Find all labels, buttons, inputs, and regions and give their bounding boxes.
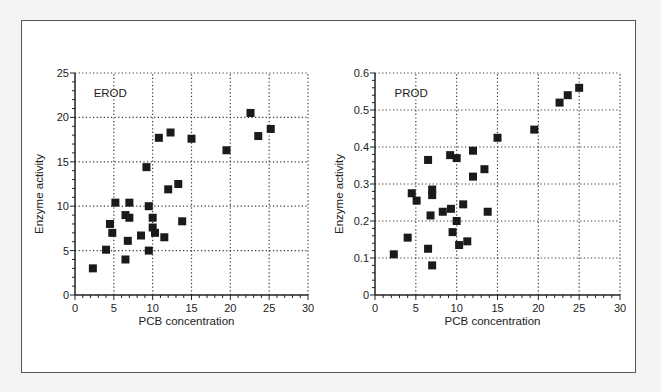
figure-svg: 0510152025300510152025PCB concentrationE… (0, 0, 661, 392)
data-point-marker (102, 246, 110, 254)
data-point-marker (254, 132, 262, 140)
y-tick-label: 20 (57, 111, 69, 123)
x-tick-label: 20 (224, 302, 236, 314)
data-point-marker (145, 247, 153, 255)
data-point-marker (575, 84, 583, 92)
data-point-marker (459, 200, 467, 208)
data-point-marker (142, 163, 150, 171)
data-point-marker (137, 232, 145, 240)
data-point-marker (106, 220, 114, 228)
y-tick-label: 0.4 (354, 141, 369, 153)
y-tick-label: 15 (57, 156, 69, 168)
data-point-marker (145, 202, 153, 210)
data-point-marker (427, 211, 435, 219)
x-axis-label: PCB concentration (445, 315, 541, 327)
x-tick-label: 15 (491, 302, 503, 314)
x-tick-label: 20 (532, 302, 544, 314)
y-tick-label: 0 (63, 289, 69, 301)
data-point-marker (404, 234, 412, 242)
data-point-marker (174, 180, 182, 188)
data-point-marker (149, 214, 157, 222)
data-point-marker (267, 125, 275, 133)
data-point-marker (439, 208, 447, 216)
data-point-marker (167, 128, 175, 136)
y-tick-label: 10 (57, 200, 69, 212)
y-tick-label: 0.6 (354, 67, 369, 79)
x-tick-label: 0 (72, 302, 78, 314)
data-point-marker (424, 245, 432, 253)
data-point-marker (124, 237, 132, 245)
data-point-marker (469, 173, 477, 181)
y-tick-label: 25 (57, 67, 69, 79)
x-tick-label: 15 (185, 302, 197, 314)
panel-label: PROD (395, 87, 428, 99)
data-point-marker (564, 91, 572, 99)
y-tick-label: 0.1 (354, 252, 369, 264)
x-tick-label: 5 (111, 302, 117, 314)
x-tick-label: 30 (614, 302, 626, 314)
data-point-marker (121, 255, 129, 263)
x-tick-label: 25 (263, 302, 275, 314)
data-point-marker (463, 237, 471, 245)
x-tick-label: 10 (451, 302, 463, 314)
data-point-marker (188, 135, 196, 143)
y-axis-label: Enzyme activity (33, 154, 45, 234)
data-point-marker (108, 229, 116, 237)
x-tick-label: 10 (147, 302, 159, 314)
y-axis-label: Enzyme activity (333, 154, 345, 234)
panel-label: EROD (94, 87, 127, 99)
x-tick-label: 5 (413, 302, 419, 314)
y-tick-label: 0 (363, 289, 369, 301)
data-point-marker (455, 241, 463, 249)
data-point-marker (556, 99, 564, 107)
data-point-marker (160, 233, 168, 241)
erod-scatter-plot: 0510152025300510152025PCB concentrationE… (33, 67, 314, 327)
x-axis-label: PCB concentration (139, 315, 235, 327)
y-tick-label: 0.3 (354, 178, 369, 190)
y-tick-label: 0.5 (354, 104, 369, 116)
data-point-marker (155, 134, 163, 142)
data-point-marker (428, 191, 436, 199)
x-tick-label: 30 (302, 302, 314, 314)
data-point-marker (111, 199, 119, 207)
data-point-marker (424, 156, 432, 164)
data-point-marker (247, 109, 255, 117)
data-point-marker (449, 228, 457, 236)
data-point-marker (453, 217, 461, 225)
data-point-marker (390, 250, 398, 258)
data-point-marker (222, 146, 230, 154)
data-point-marker (178, 217, 186, 225)
data-point-marker (484, 208, 492, 216)
data-point-marker (413, 197, 421, 205)
data-point-marker (530, 126, 538, 134)
data-point-marker (151, 229, 159, 237)
data-point-marker (480, 165, 488, 173)
data-point-marker (408, 189, 416, 197)
data-point-marker (125, 199, 133, 207)
x-tick-label: 0 (372, 302, 378, 314)
prod-scatter-plot: 05101520253000.10.20.30.40.50.6PCB conce… (333, 67, 626, 327)
x-tick-label: 25 (573, 302, 585, 314)
data-point-marker (125, 214, 133, 222)
data-point-marker (164, 185, 172, 193)
data-point-marker (428, 261, 436, 269)
y-tick-label: 5 (63, 245, 69, 257)
data-point-marker (89, 264, 97, 272)
data-point-marker (494, 134, 502, 142)
data-point-marker (469, 147, 477, 155)
y-tick-label: 0.2 (354, 215, 369, 227)
data-point-marker (453, 154, 461, 162)
data-point-marker (447, 205, 455, 213)
